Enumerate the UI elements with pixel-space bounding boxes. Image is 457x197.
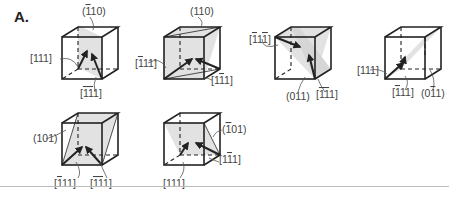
cube-6 — [164, 113, 220, 165]
cube-3-dir-b-label: [111] — [316, 88, 338, 100]
cube-4-dir-b-label: [111] — [392, 86, 414, 98]
cube-3-dir-a-label: [111] — [249, 33, 271, 45]
cube-3 — [275, 27, 331, 79]
cube-5 — [62, 113, 118, 165]
cube-1-dir-b-label: [111] — [80, 87, 102, 99]
cube-1 — [62, 25, 118, 79]
bottom-divider — [0, 186, 449, 187]
cube-5-dir-a-label: [111] — [54, 177, 76, 189]
plane-shading — [164, 27, 220, 79]
crystal-planes-figure: (110) [111] [111] (110) [111] [111] [111… — [0, 0, 457, 197]
cube-1-dir-a-label: [111] — [30, 52, 52, 64]
cube-3-plane-label: (011) — [286, 90, 310, 102]
cube-1-plane-label: (110) — [82, 5, 106, 17]
cube-5-plane-label: (101) — [33, 132, 58, 144]
cube-2-dir-a-label: [111] — [135, 57, 157, 69]
cube-4-dir-a-label: [111] — [357, 64, 379, 76]
cube-5-dir-b-label: [111] — [90, 177, 112, 189]
cube-2-plane-label: (110) — [190, 5, 214, 17]
cube-4-plane-label: (011) — [421, 87, 445, 99]
cube-2-dir-b-label: [111] — [211, 74, 233, 86]
cube-2 — [164, 27, 220, 79]
cube-6-dir-a-label: [111] — [163, 177, 185, 189]
cube-6-dir-b-label: [111] — [219, 153, 241, 165]
cube-6-plane-label: (101) — [222, 123, 247, 135]
cube-4 — [385, 27, 441, 79]
